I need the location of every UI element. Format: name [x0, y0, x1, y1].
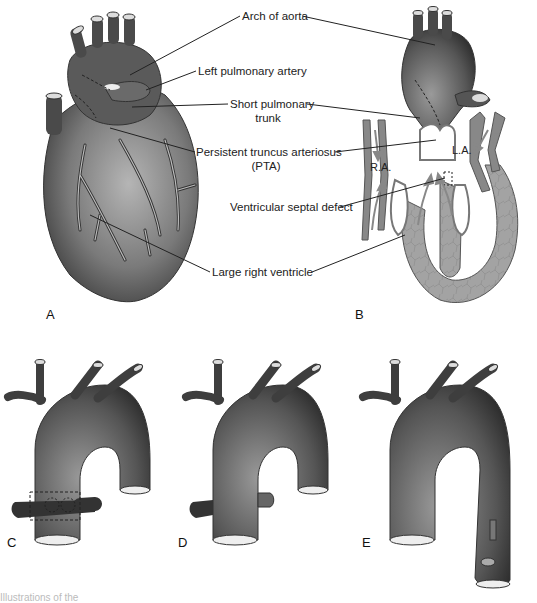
label-ventricular-septal-defect: Ventricular septal defect — [230, 200, 353, 214]
label-persistent-truncus-arteriosus: Persistent truncus arteriosus (PTA) — [196, 145, 336, 173]
label-arch-of-aorta: Arch of aorta — [242, 9, 308, 23]
panel-label-d: D — [178, 535, 187, 550]
figure-caption: Illustrations of the — [0, 592, 78, 603]
aortic-arch-e — [363, 360, 510, 589]
panel-label-b: B — [355, 307, 364, 322]
label-short-pulmonary-trunk: Short pulmonary trunk — [230, 97, 306, 125]
label-pta-line1: Persistent truncus arteriosus — [196, 145, 336, 159]
label-pta-line2: (PTA) — [196, 159, 336, 173]
panel-label-a: A — [46, 307, 55, 322]
heart-section-view — [362, 7, 518, 303]
aortic-arch-d — [186, 360, 328, 546]
label-left-atrium: L.A. — [452, 143, 472, 157]
panel-label-c: C — [7, 535, 16, 550]
label-short-pulmonary-trunk-line1: Short pulmonary — [230, 97, 306, 111]
label-short-pulmonary-trunk-line2: trunk — [230, 111, 306, 125]
heart-external-view — [44, 12, 199, 302]
label-large-right-ventricle: Large right ventricle — [212, 265, 313, 279]
label-right-atrium: R.A. — [370, 160, 391, 174]
aortic-arch-c — [8, 360, 150, 546]
panel-label-e: E — [362, 535, 371, 550]
label-left-pulmonary-artery: Left pulmonary artery — [198, 64, 307, 78]
